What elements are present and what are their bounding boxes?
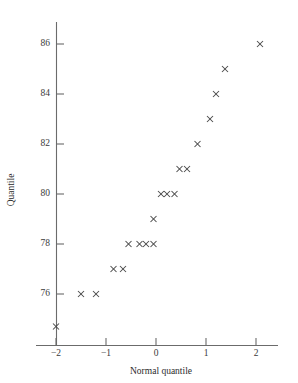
data-point-series	[53, 41, 263, 330]
qq-plot-figure: 767880828486 −2−1012 Normal quantile Qua…	[0, 0, 298, 383]
x-tick-label: 2	[254, 348, 259, 358]
x-tick-label: −1	[101, 348, 111, 358]
data-point-marker	[213, 91, 219, 97]
data-point-marker	[137, 241, 143, 247]
y-tick-label: 76	[41, 288, 51, 298]
data-point-marker	[195, 141, 201, 147]
x-axis-ticks: −2−1012	[51, 338, 259, 358]
x-axis-title: Normal quantile	[130, 366, 192, 376]
data-point-marker	[143, 241, 149, 247]
x-tick-label: 0	[154, 348, 159, 358]
data-point-marker	[126, 241, 132, 247]
y-tick-label: 82	[41, 138, 51, 148]
data-point-marker	[222, 66, 228, 72]
data-point-marker	[257, 41, 263, 47]
y-tick-label: 86	[41, 38, 51, 48]
data-point-marker	[172, 191, 178, 197]
data-point-marker	[120, 266, 126, 272]
y-axis-title: Quantile	[6, 174, 16, 207]
data-point-marker	[151, 241, 157, 247]
x-tick-label: −2	[51, 348, 61, 358]
data-point-marker	[184, 166, 190, 172]
data-point-marker	[158, 191, 164, 197]
y-axis-ticks: 767880828486	[41, 38, 65, 298]
y-tick-label: 78	[41, 238, 51, 248]
data-point-marker	[111, 266, 117, 272]
data-point-marker	[207, 116, 213, 122]
data-point-marker	[177, 166, 183, 172]
qq-plot-canvas: 767880828486 −2−1012 Normal quantile Qua…	[0, 0, 298, 383]
y-tick-label: 84	[41, 88, 51, 98]
x-tick-label: 1	[204, 348, 209, 358]
data-point-marker	[78, 291, 84, 297]
data-point-marker	[164, 191, 170, 197]
data-point-marker	[151, 216, 157, 222]
data-point-marker	[93, 291, 99, 297]
y-tick-label: 80	[41, 188, 51, 198]
